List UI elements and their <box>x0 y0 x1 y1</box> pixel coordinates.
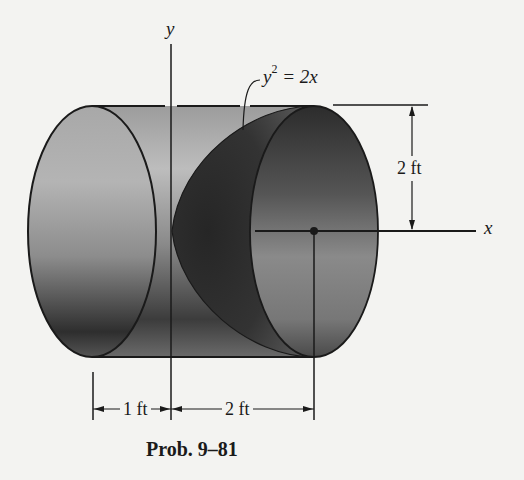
radius-dimension-label: 2 ft <box>397 156 422 181</box>
equation-label: y2 = 2x <box>263 65 318 88</box>
right-length-label: 2 ft <box>222 399 253 420</box>
problem-figure: y x y2 = 2x 2 ft 1 ft 2 ft Prob. 9–81 <box>0 0 524 480</box>
cylinder-paraboloid-diagram <box>0 0 524 480</box>
y-axis-label: y <box>166 18 174 40</box>
left-length-label: 1 ft <box>120 399 151 420</box>
equation-exponent: 2 <box>271 62 277 76</box>
figure-caption: Prob. 9–81 <box>146 438 238 461</box>
equation-rhs: = 2x <box>277 66 317 87</box>
x-axis-label: x <box>484 217 492 239</box>
left-end-cap <box>28 106 156 357</box>
